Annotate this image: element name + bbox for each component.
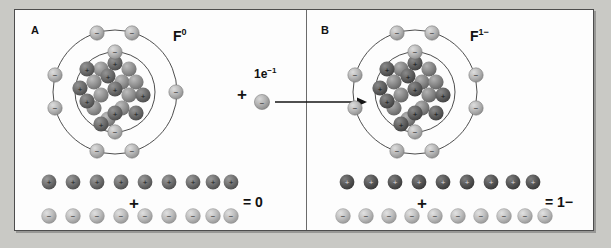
svg-text:−: − <box>387 212 392 221</box>
svg-text:+: + <box>345 178 350 187</box>
panel-label-b: B <box>321 24 329 36</box>
svg-text:−: − <box>479 212 484 221</box>
svg-text:+: + <box>465 178 470 187</box>
svg-text:+: + <box>531 178 536 187</box>
svg-text:+: + <box>385 66 390 75</box>
svg-text:+: + <box>85 98 90 107</box>
svg-text:−: − <box>395 147 400 156</box>
svg-text:−: − <box>191 212 196 221</box>
svg-text:−: − <box>119 212 124 221</box>
svg-text:−: − <box>95 147 100 156</box>
added-particle-superscript: −1 <box>267 66 276 75</box>
svg-text:−: − <box>543 212 548 221</box>
tally-electrons-a: − − − − − − − − − <box>42 209 239 224</box>
svg-text:−: − <box>502 212 507 221</box>
svg-text:−: − <box>143 212 148 221</box>
svg-text:+: + <box>141 92 146 101</box>
svg-text:−: − <box>53 104 58 113</box>
tally-result-a: = 0 <box>243 194 263 210</box>
svg-text:−: − <box>474 71 479 80</box>
svg-text:−: − <box>395 29 400 38</box>
nucleus-b: + + + + + + + + + <box>372 55 450 131</box>
svg-text:−: − <box>413 128 418 137</box>
svg-text:−: − <box>364 212 369 221</box>
svg-text:+: + <box>106 73 111 82</box>
svg-text:−: − <box>260 99 265 108</box>
svg-text:+: + <box>399 121 404 130</box>
tally-operator-a: + <box>129 194 139 214</box>
svg-text:−: − <box>95 29 100 38</box>
svg-text:−: − <box>174 88 179 97</box>
svg-text:+: + <box>99 121 104 130</box>
svg-text:+: + <box>385 98 390 107</box>
svg-text:−: − <box>410 212 415 221</box>
reaction-plus-operator: + <box>237 85 247 105</box>
svg-text:−: − <box>53 71 58 80</box>
tally-protons-a: + + + + + + + + + <box>42 175 239 190</box>
tally-electrons-b: − − − − − − − − − − <box>336 209 553 224</box>
svg-text:−: − <box>71 212 76 221</box>
svg-text:−: − <box>113 48 118 57</box>
svg-text:+: + <box>71 178 76 187</box>
svg-text:+: + <box>511 178 516 187</box>
svg-text:−: − <box>430 29 435 38</box>
svg-text:+: + <box>369 178 374 187</box>
svg-text:+: + <box>434 110 439 119</box>
svg-text:+: + <box>413 86 418 95</box>
svg-text:+: + <box>119 178 124 187</box>
svg-text:−: − <box>523 212 528 221</box>
atom-diagram-b: + + + + + + + + + <box>333 20 533 180</box>
figure-frame: A F0 <box>14 9 594 231</box>
svg-text:−: − <box>113 128 118 137</box>
svg-text:−: − <box>130 29 135 38</box>
svg-text:+: + <box>211 178 216 187</box>
svg-text:+: + <box>113 110 118 119</box>
svg-text:−: − <box>229 212 234 221</box>
svg-text:+: + <box>229 178 234 187</box>
svg-text:−: − <box>130 147 135 156</box>
svg-text:−: − <box>353 71 358 80</box>
atom-diagram-a: + + + + + + + + + <box>33 20 233 180</box>
svg-text:+: + <box>413 60 418 69</box>
svg-text:+: + <box>489 178 494 187</box>
figure-canvas: A F0 <box>0 0 611 248</box>
svg-text:+: + <box>78 85 83 94</box>
svg-text:+: + <box>406 73 411 82</box>
svg-text:+: + <box>85 66 90 75</box>
svg-text:−: − <box>430 147 435 156</box>
svg-text:+: + <box>393 178 398 187</box>
added-particle-label: 1e−1 <box>254 66 276 81</box>
svg-text:−: − <box>353 104 358 113</box>
svg-text:+: + <box>417 178 422 187</box>
nucleus-a: + + + + + + + + + <box>72 55 150 131</box>
tally-operator-b: + <box>417 194 427 214</box>
svg-text:−: − <box>167 212 172 221</box>
svg-text:+: + <box>167 178 172 187</box>
svg-text:+: + <box>441 92 446 101</box>
svg-text:+: + <box>143 178 148 187</box>
svg-text:+: + <box>95 178 100 187</box>
svg-text:−: − <box>456 212 461 221</box>
svg-text:+: + <box>47 178 52 187</box>
panel-divider <box>306 10 307 230</box>
svg-text:−: − <box>47 212 52 221</box>
svg-text:+: + <box>191 178 196 187</box>
tally-result-b: = 1− <box>545 194 573 210</box>
svg-text:−: − <box>433 212 438 221</box>
svg-text:−: − <box>211 212 216 221</box>
svg-text:−: − <box>341 212 346 221</box>
svg-text:+: + <box>113 86 118 95</box>
svg-text:+: + <box>378 85 383 94</box>
svg-text:−: − <box>95 212 100 221</box>
tally-protons-b: + + + + + + + + + <box>340 175 541 190</box>
svg-text:+: + <box>113 60 118 69</box>
svg-text:+: + <box>134 110 139 119</box>
svg-text:+: + <box>441 178 446 187</box>
svg-text:+: + <box>413 110 418 119</box>
svg-text:−: − <box>413 48 418 57</box>
svg-text:−: − <box>474 104 479 113</box>
